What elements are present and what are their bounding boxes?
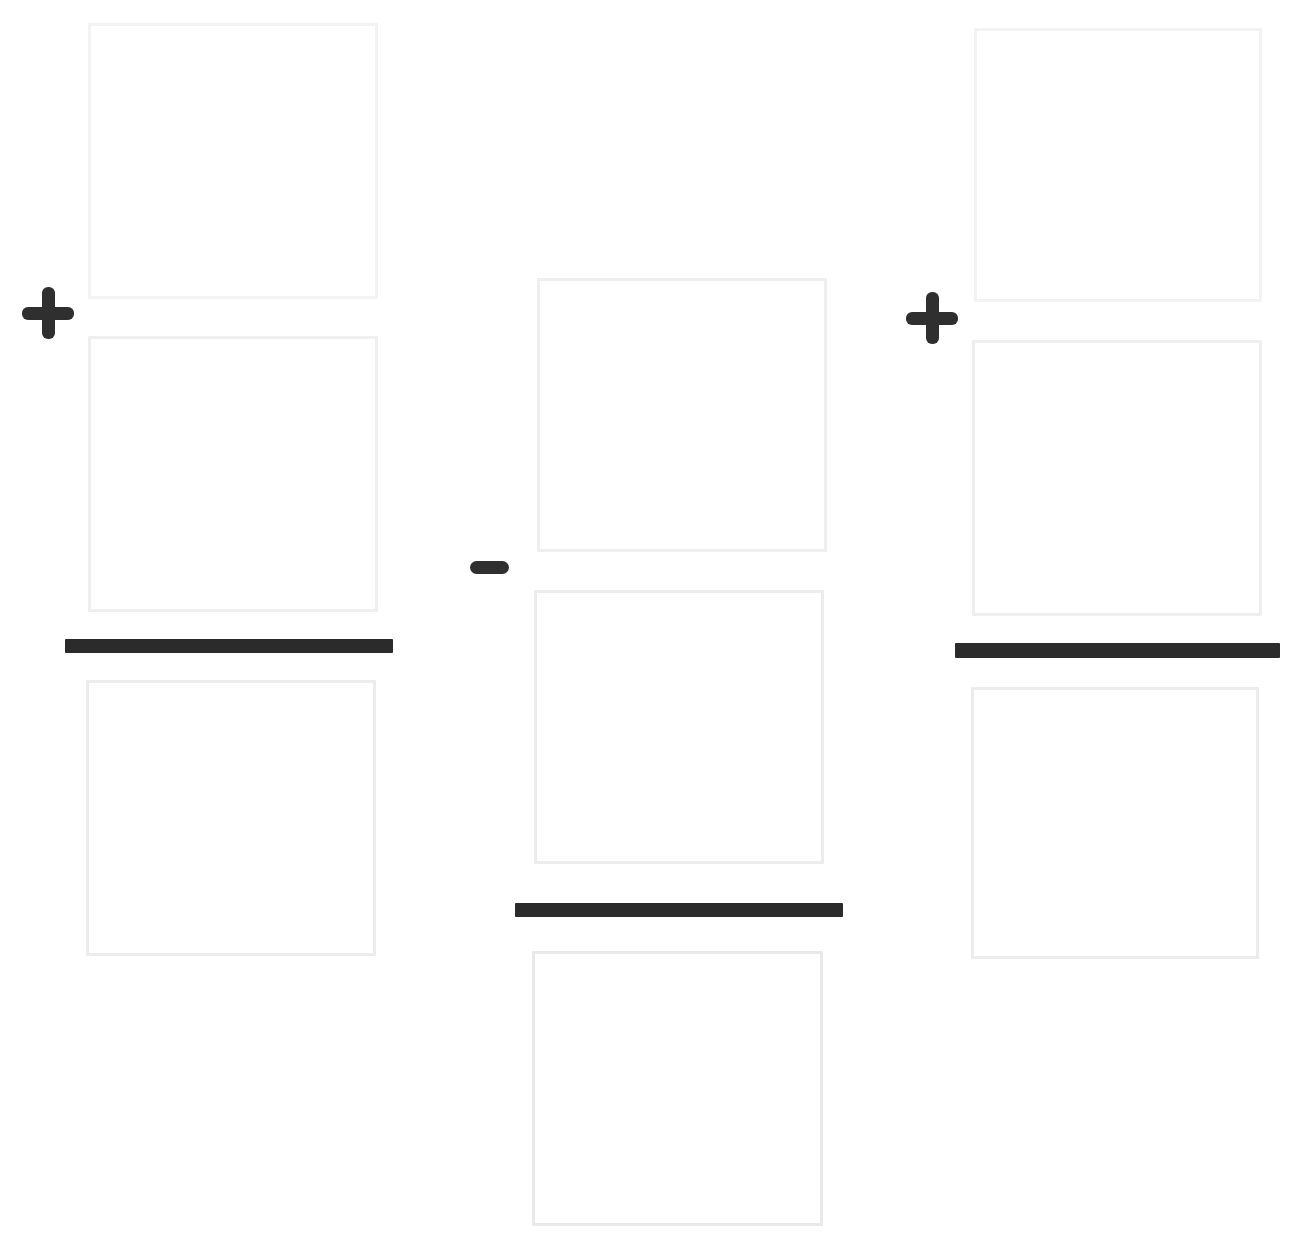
numerator-box-left[interactable] xyxy=(88,336,378,612)
plus-vertical-stroke xyxy=(42,287,55,339)
denominator-box-middle[interactable] xyxy=(532,951,823,1226)
plus-symbol-label: + xyxy=(906,292,907,293)
worksheet-canvas: Fraction Arithmetic Worksheet + − + xyxy=(0,0,1302,1251)
whole-number-box-right[interactable] xyxy=(974,28,1262,302)
fraction-bar-left xyxy=(65,639,393,653)
plus-symbol-label: + xyxy=(22,287,23,288)
plus-vertical-stroke xyxy=(926,292,939,344)
minus-symbol-label: − xyxy=(470,560,471,561)
whole-number-box-left[interactable] xyxy=(88,23,378,299)
page-title: Fraction Arithmetic Worksheet xyxy=(0,0,1,1)
minus-icon: − xyxy=(470,560,509,574)
numerator-box-middle[interactable] xyxy=(534,590,824,864)
plus-icon: + xyxy=(22,287,74,339)
minus-horizontal-stroke xyxy=(470,561,509,574)
fraction-bar-right xyxy=(955,643,1280,658)
numerator-box-right[interactable] xyxy=(972,340,1262,616)
denominator-box-right[interactable] xyxy=(971,687,1259,959)
plus-icon: + xyxy=(906,292,958,344)
whole-number-box-middle[interactable] xyxy=(537,278,827,552)
fraction-bar-middle xyxy=(515,903,843,917)
denominator-box-left[interactable] xyxy=(86,680,376,956)
